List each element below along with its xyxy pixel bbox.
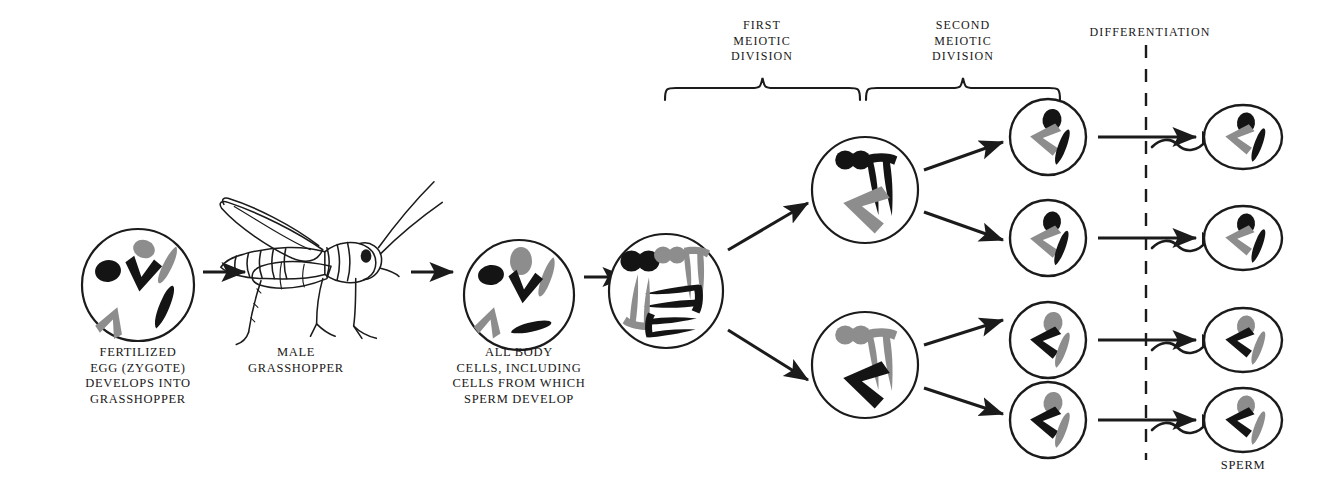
spermatid-row-4 [1010,382,1086,458]
grasshopper-part [272,250,274,279]
grasshopper-part [247,253,249,277]
chromosome-dot [668,246,686,263]
meiosis-diagram-artwork [0,0,1336,491]
sperm-tail [1152,423,1206,433]
label-sperm: SPERM [1073,458,1336,474]
grasshopper-part [220,202,323,262]
sperm-tail [1152,343,1206,353]
arrow-meiosis2-d [924,388,1003,414]
grasshopper-part [234,207,310,250]
grasshopper-part [280,262,282,289]
cell-membrane [1010,200,1086,276]
spermatid-row-1 [1010,99,1086,175]
grasshopper-part [348,243,350,281]
primary-spermatocyte-cell [609,234,723,348]
secondary-spermatocyte-lower [812,312,918,418]
cell-membrane [1010,382,1086,458]
grasshopper-part [337,245,339,280]
grasshopper-part [252,261,331,288]
body-cell [464,240,574,350]
secondary-spermatocyte-upper [812,137,918,243]
spermatid-row-2 [1010,200,1086,276]
grasshopper-part [380,202,442,254]
sperm-tail [1152,140,1206,150]
grasshopper-eye [361,249,372,263]
cell-membrane [1010,302,1086,378]
spermatid-row-3 [1010,302,1086,378]
header-differentiation: DIFFERENTIATION [980,25,1320,41]
grasshopper-part [317,324,336,336]
diagram-canvas: FIRST MEIOTIC DIVISIONSECOND MEIOTIC DIV… [0,0,1336,491]
grasshopper-part [249,281,261,333]
first-meiotic-division-brace [665,78,860,100]
grasshopper-part [260,251,262,278]
arrow-meiosis1-upper [728,203,808,250]
male-grasshopper-drawing [220,182,442,345]
grasshopper-part [236,332,248,344]
label-all-body-cells: ALL BODY CELLS, INCLUDING CELLS FROM WHI… [349,345,689,407]
grasshopper-body-group [220,182,442,345]
fertilized-egg-cell [82,229,194,341]
grasshopper-part [303,264,305,287]
chromosome-dot [510,247,532,275]
arrow-meiosis1-lower [728,330,808,380]
arrow-meiosis2-a [924,142,1003,170]
sperm-tail [1152,241,1206,251]
second-meiotic-division-brace [866,78,1060,100]
grasshopper-part [380,268,399,276]
arrow-meiosis2-c [924,320,1003,345]
grasshopper-part [251,289,261,322]
arrow-meiosis2-b [924,212,1003,240]
grasshopper-part [284,249,286,279]
